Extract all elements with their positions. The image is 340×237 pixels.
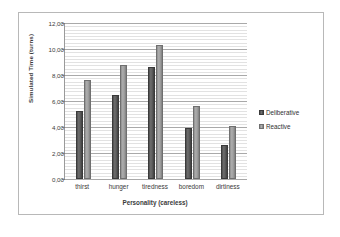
chart-legend: DeliberativeReactive — [259, 109, 321, 137]
bar-group — [211, 23, 247, 179]
y-tick-label: 2,00 — [37, 150, 64, 157]
bar-reactive-hunger[interactable] — [120, 65, 127, 179]
bar-deliberative-thirst[interactable] — [76, 111, 83, 179]
legend-item-deliberative[interactable]: Deliberative — [259, 109, 321, 116]
bar-deliberative-hunger[interactable] — [112, 95, 119, 180]
legend-item-reactive[interactable]: Reactive — [259, 123, 321, 130]
legend-swatch-icon — [259, 124, 264, 129]
y-tick-mark — [62, 179, 65, 180]
bar-deliberative-boredom[interactable] — [185, 128, 192, 179]
bar-reactive-thirst[interactable] — [84, 80, 91, 179]
x-tick-label-tiredness: tiredness — [142, 183, 168, 190]
bar-group — [101, 23, 137, 179]
y-tick-mark — [62, 75, 65, 76]
bar-deliberative-tiredness[interactable] — [148, 67, 155, 179]
x-tick-label-thirst: thirst — [75, 183, 89, 190]
y-tick-mark — [62, 153, 65, 154]
bar-deliberative-dirtiness[interactable] — [221, 145, 228, 179]
x-tick-label-hunger: hunger — [109, 183, 129, 190]
y-tick-label: 4,00 — [37, 124, 64, 131]
y-tick-label: 6,00 — [37, 98, 64, 105]
bars-layer — [65, 23, 247, 179]
y-tick-mark — [62, 127, 65, 128]
y-tick-label: 12,00 — [37, 20, 64, 27]
x-tick-label-boredom: boredom — [179, 183, 204, 190]
bar-group — [174, 23, 210, 179]
y-tick-label: 8,00 — [37, 72, 64, 79]
x-tick-label-dirtiness: dirtiness — [216, 183, 240, 190]
bar-reactive-boredom[interactable] — [193, 106, 200, 179]
legend-label: Deliberative — [266, 109, 299, 116]
legend-label: Reactive — [266, 123, 291, 130]
bar-group — [138, 23, 174, 179]
bar-reactive-tiredness[interactable] — [156, 45, 163, 179]
y-axis-tick-labels: 0,002,004,006,008,0010,0012,00 — [37, 17, 64, 185]
gridline-major — [65, 179, 247, 180]
chart-frame: Simulated Time (turns) 0,002,004,006,008… — [18, 12, 324, 215]
y-tick-mark — [62, 101, 65, 102]
y-axis-title: Simulated Time (turns) — [27, 14, 34, 124]
bar-reactive-dirtiness[interactable] — [229, 126, 236, 179]
bar-group — [65, 23, 101, 179]
y-tick-mark — [62, 49, 65, 50]
x-axis-tick-labels: thirsthungertirednessboredomdirtiness — [64, 183, 246, 197]
legend-swatch-icon — [259, 110, 264, 115]
y-tick-label: 0,00 — [37, 176, 64, 183]
y-tick-mark — [62, 23, 65, 24]
plot-area — [64, 23, 247, 180]
x-axis-title: Personality (careless) — [64, 199, 246, 206]
y-tick-label: 10,00 — [37, 46, 64, 53]
